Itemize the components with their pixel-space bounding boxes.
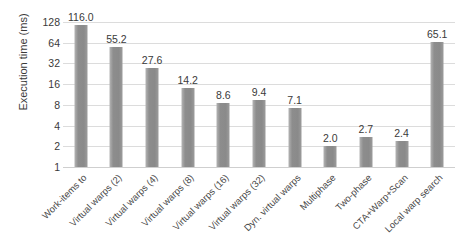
y-axis-tick-32: 32 bbox=[28, 58, 60, 68]
bar-value-label: 116.0 bbox=[68, 12, 94, 23]
bar-value-label: 9.4 bbox=[252, 87, 267, 98]
bar[interactable] bbox=[395, 141, 408, 167]
bars-layer: 116.055.227.614.28.69.47.12.02.72.465.1 bbox=[63, 22, 455, 167]
bar-slot: 2.0 bbox=[312, 22, 348, 167]
bar[interactable] bbox=[324, 146, 337, 167]
bar[interactable] bbox=[181, 88, 194, 167]
y-axis-tick-128: 128 bbox=[28, 17, 60, 27]
bar-value-label: 8.6 bbox=[216, 90, 231, 101]
bar-chart: Execution time (ms) 1286432168421 116.05… bbox=[0, 0, 476, 246]
bar-value-label: 7.1 bbox=[287, 95, 302, 106]
bar-value-label: 14.2 bbox=[178, 75, 198, 86]
y-axis-tick-8: 8 bbox=[28, 100, 60, 110]
y-axis-tick-1: 1 bbox=[28, 162, 60, 172]
plot-area: 116.055.227.614.28.69.47.12.02.72.465.1 bbox=[63, 22, 455, 167]
bar-value-label: 65.1 bbox=[427, 29, 447, 40]
bar-slot: 14.2 bbox=[170, 22, 206, 167]
bar[interactable] bbox=[110, 47, 123, 167]
y-axis-tick-4: 4 bbox=[28, 121, 60, 131]
bar[interactable] bbox=[288, 108, 301, 167]
bar-slot: 9.4 bbox=[241, 22, 277, 167]
bar-value-label: 2.7 bbox=[359, 124, 374, 135]
bar-slot: 27.6 bbox=[134, 22, 170, 167]
bar[interactable] bbox=[359, 137, 372, 167]
bar-slot: 8.6 bbox=[206, 22, 242, 167]
bar-value-label: 55.2 bbox=[106, 34, 126, 45]
bar-slot: 2.4 bbox=[384, 22, 420, 167]
bar[interactable] bbox=[146, 68, 159, 167]
bar-slot: 65.1 bbox=[419, 22, 455, 167]
bar[interactable] bbox=[431, 42, 444, 167]
x-axis-category-labels: Work-items toVirtual warps (2)Virtual wa… bbox=[63, 168, 455, 246]
bar-value-label: 2.0 bbox=[323, 133, 338, 144]
y-axis-tick-64: 64 bbox=[28, 38, 60, 48]
y-axis-tick-16: 16 bbox=[28, 79, 60, 89]
bar[interactable] bbox=[252, 100, 265, 167]
bar-slot: 7.1 bbox=[277, 22, 313, 167]
bar-value-label: 27.6 bbox=[142, 55, 162, 66]
bar-slot: 55.2 bbox=[99, 22, 135, 167]
x-label-slot: Local warp search bbox=[419, 168, 455, 246]
bar[interactable] bbox=[74, 25, 87, 167]
y-axis-tick-2: 2 bbox=[28, 141, 60, 151]
bar-slot: 2.7 bbox=[348, 22, 384, 167]
bar-value-label: 2.4 bbox=[394, 128, 409, 139]
bar[interactable] bbox=[217, 103, 230, 167]
bar-slot: 116.0 bbox=[63, 22, 99, 167]
